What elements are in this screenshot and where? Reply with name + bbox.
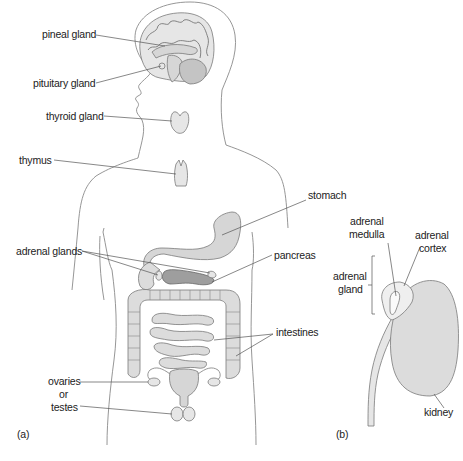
label-testes: testes [51,401,78,413]
leader-lines-a [54,35,306,414]
label-thyroid-gland: thyroid gland [46,110,104,122]
caption-a: (a) [17,428,29,440]
label-or: or [59,388,69,400]
brain [140,13,214,84]
label-ovaries: ovaries [48,375,80,387]
label-adrenal-cortex-2: cortex [419,242,447,254]
label-adrenal-cortex-1: adrenal [415,229,449,241]
label-adrenal-glands: adrenal glands [16,245,82,257]
label-stomach: stomach [308,189,347,201]
label-adrenal-medulla-1: adrenal [350,215,384,227]
adrenal-gland-left [156,271,162,280]
stomach [144,212,241,268]
label-pituitary-gland: pituitary gland [33,77,96,89]
label-kidney: kidney [424,406,454,418]
endocrine-system-diagram: pineal gland pituitary gland thyroid gla… [0,0,463,461]
small-intestine [150,313,214,368]
thymus [175,160,188,186]
adrenal-gland-bracket [368,256,375,314]
label-intestines: intestines [276,326,318,338]
label-pancreas: pancreas [274,249,316,261]
thyroid-gland [171,112,189,133]
kidney-and-adrenal [368,281,458,426]
pancreas [162,270,214,285]
label-adrenal-gland-1: adrenal [333,270,367,282]
label-adrenal-medulla-2: medulla [349,228,385,240]
label-adrenal-gland-2: gland [338,283,363,295]
adrenal-gland-right [208,271,216,278]
label-pineal-gland: pineal gland [42,28,97,40]
label-thymus: thymus [19,154,52,166]
caption-b: (b) [336,428,348,440]
